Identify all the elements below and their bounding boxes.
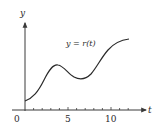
- function-label: y = r(t): [65, 39, 96, 48]
- tick-label-10: 10: [105, 114, 117, 124]
- y-axis-label: y: [19, 8, 26, 18]
- t-axis-label: t: [148, 105, 152, 115]
- function-graph: y t 0 5 10 y = r(t): [0, 0, 157, 127]
- function-curve: [25, 39, 129, 101]
- tick-label-5: 5: [65, 114, 71, 124]
- origin-label: 0: [14, 114, 20, 124]
